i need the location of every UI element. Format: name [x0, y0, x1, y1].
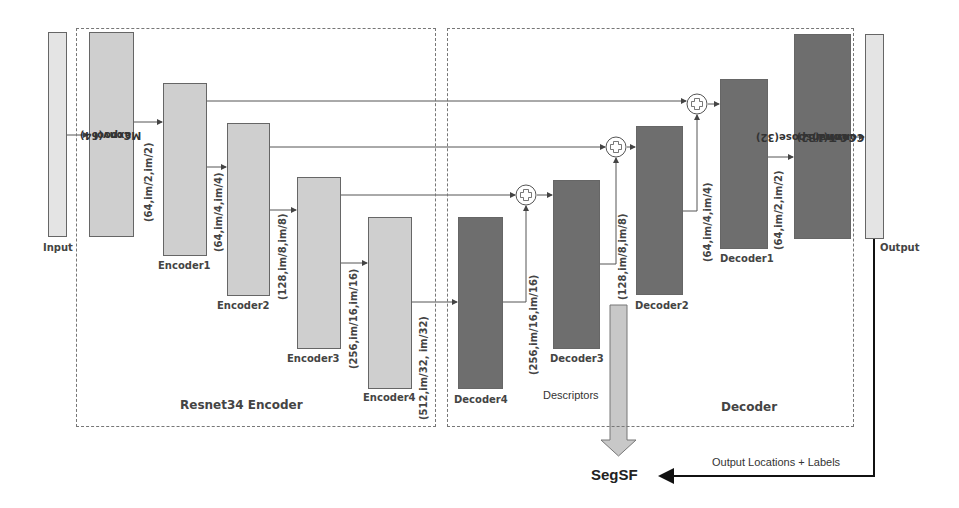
- encoder4-label: Encoder4: [363, 392, 416, 403]
- input-label: Input: [43, 242, 73, 253]
- encoder4-shape-label: (512,im/32, im/32): [418, 316, 429, 420]
- decoder2-shape-label: (64,im/4,im/4): [702, 182, 713, 262]
- decoder1-shape-label: (64,im/2,im/2): [773, 170, 784, 250]
- head-block-text: ConvTranspose(32)Conv(32)Conv(1): [794, 34, 851, 239]
- output-locations-labels-text: Output Locations + Labels: [712, 456, 840, 468]
- decoder1-block: [720, 79, 768, 249]
- decoder4-block: [458, 217, 503, 389]
- input-block: [48, 32, 67, 237]
- decoder2-label: Decoder2: [635, 300, 689, 311]
- output-label: Output: [880, 242, 919, 253]
- decoder1-label: Decoder1: [720, 253, 774, 264]
- encoder4-block: [368, 217, 412, 389]
- encoder2-shape-label: (128,im/8,im/8): [277, 213, 288, 300]
- stem-line-2: Maxpool: [92, 129, 143, 141]
- decoder3-block: [553, 180, 600, 349]
- decoder2-block: [636, 126, 683, 295]
- decoder4-label: Decoder4: [454, 394, 508, 405]
- encoder1-shape-label: (64,im/4,im/4): [213, 172, 224, 252]
- encoder1-block: [163, 83, 207, 256]
- output-block: [865, 34, 884, 239]
- decoder3-shape-label: (128,im/8,im/8): [617, 213, 628, 300]
- encoder3-label: Encoder3: [287, 353, 340, 364]
- stem-block-text: Conv(64)Maxpool: [89, 32, 134, 237]
- decoder3-label: Decoder3: [550, 353, 604, 364]
- encoder3-shape-label: (256,im/16,im/16): [348, 269, 359, 369]
- encoder2-block: [227, 123, 270, 296]
- encoder-section-title: Resnet34 Encoder: [180, 398, 303, 412]
- segsf-label: SegSF: [591, 466, 638, 483]
- encoder2-label: Encoder2: [217, 300, 270, 311]
- descriptors-label: Descriptors: [543, 389, 599, 401]
- stem-shape-label: (64,im/2,im/2): [143, 142, 154, 222]
- encoder1-label: Encoder1: [158, 260, 211, 271]
- decoder4-shape-label: (256,im/16,im/16): [528, 275, 539, 375]
- encoder3-block: [297, 177, 341, 349]
- decoder-section-title: Decoder: [721, 400, 777, 414]
